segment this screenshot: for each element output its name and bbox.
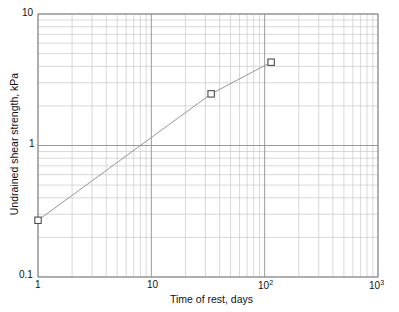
y-axis-title: Undrained shear strength, kPa [8,44,20,244]
x-tick-label-100: 102 [258,279,273,291]
x-tick-100-base: 10 [258,280,269,291]
y-tick-label-0.1: 0.1 [19,270,33,280]
series-markers [35,59,275,223]
x-tick-label-1000: 103 [369,279,384,291]
chart-figure: 10 1 0.1 1 10 102 103 Undrained shear st… [0,0,399,312]
x-tick-1000-base: 10 [369,280,380,291]
x-tick-100-exponent: 2 [269,279,273,286]
x-tick-label-1: 1 [35,280,41,290]
series-line [38,62,271,220]
data-point-marker [268,59,274,65]
y-tick-label-10: 10 [22,8,33,18]
data-point-marker [208,91,214,97]
x-tick-1000-exponent: 3 [380,279,384,286]
x-axis-title: Time of rest, days [170,293,253,305]
y-tick-label-1: 1 [29,139,35,149]
plot-canvas [0,0,399,312]
x-tick-label-10: 10 [147,280,158,290]
data-point-marker [35,217,41,223]
